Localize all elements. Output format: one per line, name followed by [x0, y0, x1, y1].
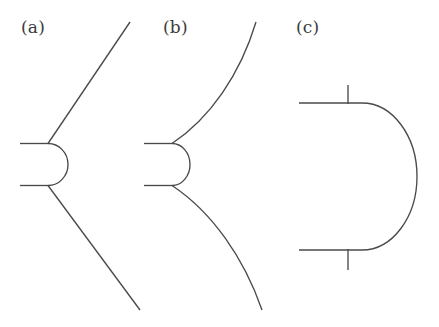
panel-a-connecting-arc — [48, 144, 68, 186]
panel-a-group — [20, 22, 140, 310]
panel-b-upper-branch — [172, 22, 256, 144]
figure-linework — [0, 0, 439, 327]
panel-label-b: (b) — [163, 19, 188, 36]
panel-a-lower-ray — [48, 186, 140, 311]
panel-b-lower-branch — [172, 186, 262, 311]
panel-label-c: (c) — [296, 19, 319, 36]
panel-c-group — [299, 85, 417, 270]
figure-root: (a) (b) (c) — [0, 0, 439, 327]
panel-label-a: (a) — [21, 19, 45, 36]
panel-b-connecting-arc — [172, 144, 190, 186]
panel-a-upper-ray — [48, 22, 130, 144]
panel-b-group — [144, 22, 262, 310]
panel-c-semicircular-arc — [362, 103, 417, 250]
